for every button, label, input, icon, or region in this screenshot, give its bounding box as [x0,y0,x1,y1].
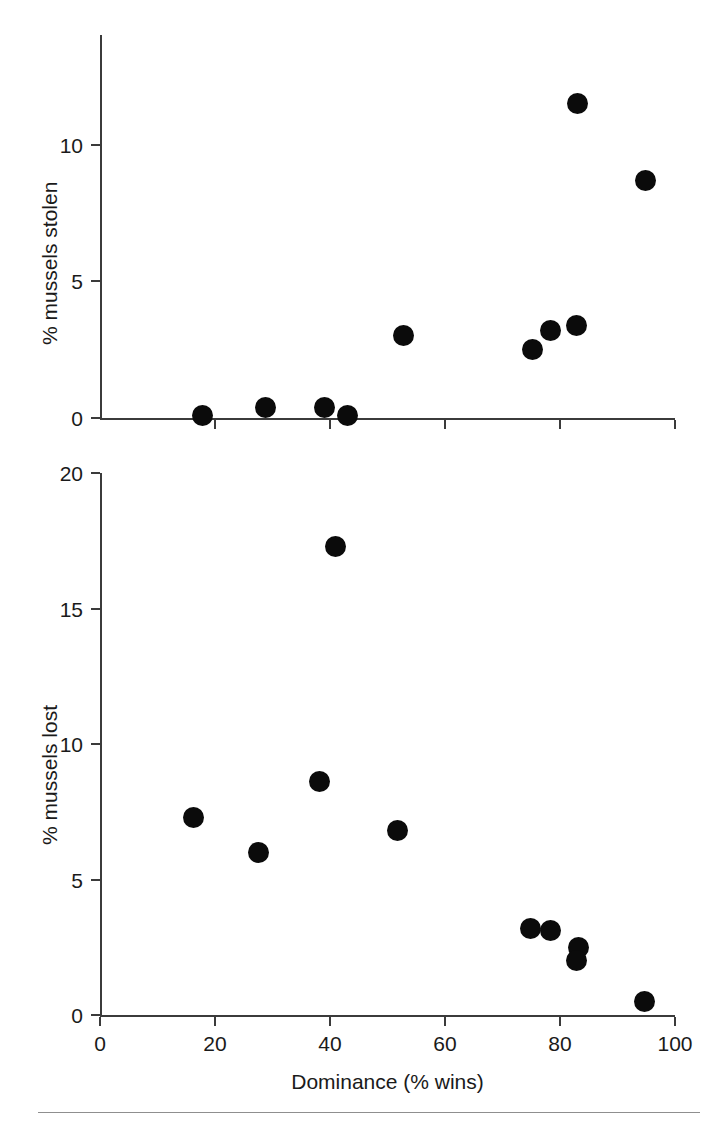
x-tick-mark [329,420,331,429]
x-tick-label: 0 [94,1033,106,1054]
data-point [567,93,588,114]
y-tick-mark [91,472,100,474]
x-tick-mark [214,1017,216,1026]
chart-panel-bottom: 05101520 020406080100 % mussels lost Dom… [0,445,721,1085]
y-axis-title-bottom: % mussels lost [38,705,62,845]
x-tick-label: 20 [203,1033,226,1054]
y-tick-label: 0 [38,1005,83,1026]
data-point [337,405,358,426]
x-tick-label: 60 [433,1033,456,1054]
x-tick-mark [329,1017,331,1026]
data-point [634,991,655,1012]
plot-area-bottom: 05101520 020406080100 % mussels lost Dom… [0,445,721,1085]
y-tick-mark [91,1014,100,1016]
y-tick-label: 10 [38,134,83,155]
y-tick-mark [91,417,100,419]
x-axis-title-bottom: Dominance (% wins) [291,1070,484,1094]
x-tick-mark [674,420,676,429]
data-point [393,325,414,346]
data-point [255,397,276,418]
data-point [387,820,408,841]
data-point [540,920,561,941]
y-tick-mark [91,144,100,146]
x-tick-label: 40 [318,1033,341,1054]
y-axis-line-top [100,35,102,418]
data-point [314,397,335,418]
data-point [635,170,656,191]
y-tick-label: 15 [38,598,83,619]
data-point [520,918,541,939]
x-tick-label: 80 [548,1033,571,1054]
chart-panel-top: 0510 % mussels stolen [0,0,721,445]
y-tick-mark [91,879,100,881]
x-tick-mark [444,420,446,429]
data-point [566,315,587,336]
plot-area-top: 0510 % mussels stolen [0,0,721,445]
data-point [566,950,587,971]
x-axis-line-top [100,418,675,420]
data-point [309,771,330,792]
y-tick-mark [91,743,100,745]
y-tick-label: 0 [38,408,83,429]
data-point [248,842,269,863]
data-point [183,807,204,828]
x-tick-mark [559,420,561,429]
data-point [522,339,543,360]
figure-container: 0510 % mussels stolen 05101520 020406080… [0,0,721,1132]
data-point [325,536,346,557]
x-tick-mark [444,1017,446,1026]
y-tick-label: 20 [38,463,83,484]
y-tick-label: 5 [38,869,83,890]
y-axis-title-top: % mussels stolen [38,182,62,345]
data-point [540,320,561,341]
y-tick-mark [91,280,100,282]
y-tick-mark [91,608,100,610]
x-tick-mark [674,1017,676,1026]
x-tick-mark [99,1017,101,1026]
x-tick-mark [559,1017,561,1026]
data-point [192,405,213,426]
y-axis-line-bottom [100,473,102,1015]
x-tick-mark [214,420,216,429]
footer-divider-rule [38,1112,700,1113]
x-tick-label: 100 [657,1033,692,1054]
x-axis-line-bottom [100,1015,675,1017]
